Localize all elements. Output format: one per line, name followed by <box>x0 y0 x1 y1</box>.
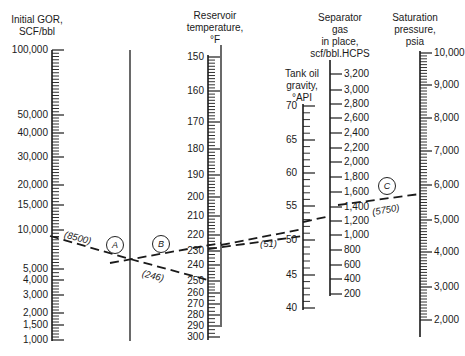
tick-label: 300 <box>187 332 204 342</box>
tick-label: 1,400 <box>344 202 369 212</box>
tick-label: 50,000 <box>17 110 48 120</box>
tick-label: 270 <box>187 299 204 309</box>
temperature-axis-title: Reservoir temperature, °F <box>175 10 255 46</box>
separator-gas-axis-title: Separator gas in place, scf/bbl.HCPS <box>300 12 380 60</box>
tick-label: 40 <box>286 303 297 313</box>
tick-label: 2,800 <box>344 99 369 109</box>
major-ticks <box>52 50 432 340</box>
tick-label: 800 <box>344 245 361 255</box>
tick-label: 280 <box>187 310 204 320</box>
minor-ticks <box>52 53 427 337</box>
tick-label: 40,000 <box>17 128 48 138</box>
tick-label: 5,000 <box>434 215 459 225</box>
tick-label: 6,000 <box>434 180 459 190</box>
tick-label: 1,200 <box>344 216 369 226</box>
tick-label: 180 <box>187 144 204 154</box>
tick-label: 2,000 <box>23 308 48 318</box>
tick-label: 240 <box>187 260 204 270</box>
tick-label: 4,000 <box>23 275 48 285</box>
tick-label: 65 <box>286 135 297 145</box>
tick-label: 9,000 <box>434 80 459 90</box>
tick-label: 3,200 <box>344 69 369 79</box>
tick-label: 230 <box>187 246 204 256</box>
tick-label: 10,000 <box>434 48 465 58</box>
tick-label: 190 <box>187 170 204 180</box>
api-axis-title: Tank oil gravity, °API <box>277 68 327 104</box>
tick-label: 2,600 <box>344 113 369 123</box>
tick-label: 3,000 <box>344 85 369 95</box>
tick-label: 2,400 <box>344 128 369 138</box>
gor-axis-title: Initial GOR, SCF/bbl <box>2 14 72 38</box>
tick-label: 290 <box>187 321 204 331</box>
tick-label: 3,000 <box>434 282 459 292</box>
dashed-line-api-to-sep <box>303 216 330 222</box>
tick-label: 260 <box>187 288 204 298</box>
tick-label: 160 <box>187 86 204 96</box>
tick-label: 2,000 <box>344 157 369 167</box>
tick-label: 45 <box>286 270 297 280</box>
tick-label: 4,000 <box>434 247 459 257</box>
tick-label: 50 <box>286 235 297 245</box>
tick-label: 220 <box>187 230 204 240</box>
tick-label: 5,000 <box>23 264 48 274</box>
tick-label: 1,000 <box>344 230 369 240</box>
tick-label: 55 <box>286 201 297 211</box>
tick-label: 600 <box>344 260 361 270</box>
tick-label: 1,000 <box>23 335 48 345</box>
tick-label: 2,200 <box>344 143 369 153</box>
tick-label: 2,000 <box>434 315 459 325</box>
tick-label: 200 <box>187 192 204 202</box>
tick-label: 400 <box>344 274 361 284</box>
step-marker-c: C <box>378 177 396 195</box>
tick-label: 70 <box>286 101 297 111</box>
tick-label: 1,500 <box>23 320 48 330</box>
tick-label: 210 <box>187 211 204 221</box>
tick-label: 100,000 <box>12 45 48 55</box>
tick-label: 3,000 <box>23 290 48 300</box>
tick-label: 1,800 <box>344 172 369 182</box>
tick-label: 15,000 <box>17 200 48 210</box>
saturation-pressure-axis-title: Saturation pressure, psia <box>375 12 455 48</box>
step-marker-b: B <box>152 235 170 253</box>
tick-label: 30,000 <box>17 152 48 162</box>
tick-label: 170 <box>187 117 204 127</box>
step-marker-a: A <box>106 236 124 254</box>
tick-label: 1,600 <box>344 187 369 197</box>
tick-label: 150 <box>187 52 204 62</box>
tick-label: 200 <box>344 289 361 299</box>
tick-label: 7,000 <box>434 146 459 156</box>
tick-label: 250 <box>187 276 204 286</box>
tick-label: 8,000 <box>434 113 459 123</box>
annotation-api-51: (51) <box>260 238 277 249</box>
tick-label: 10,000 <box>17 225 48 235</box>
tick-label: 60 <box>286 168 297 178</box>
tick-label: 20,000 <box>17 180 48 190</box>
